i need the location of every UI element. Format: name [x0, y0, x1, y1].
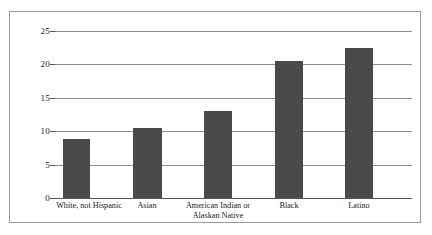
- y-tick-label-25: 25: [10, 27, 50, 36]
- x-axis-line: [55, 198, 412, 199]
- y-tick-label-5: 5: [10, 161, 50, 170]
- y-tick-label-20: 20: [10, 60, 50, 69]
- bar-chart-figure: 25 20 15 10 5 0 White, not Hispanic: [0, 0, 432, 235]
- bar-black: [275, 61, 303, 198]
- y-tick-label-15: 15: [10, 94, 50, 103]
- y-tick-label-10: 10: [10, 127, 50, 136]
- bar-white-not-hispanic: [63, 139, 90, 198]
- bar-asian: [133, 128, 162, 198]
- bar-latino: [345, 48, 373, 198]
- x-axis-labels: White, not Hispanic Asian American India…: [55, 201, 412, 225]
- y-axis-labels: 25 20 15 10 5 0: [5, 31, 50, 198]
- x-tick-label-latino: Latino: [315, 201, 403, 211]
- x-label-line-2: Alaskan Native: [168, 211, 268, 221]
- bar-american-indian-alaskan-native: [204, 111, 232, 198]
- x-label-line-1: Latino: [315, 201, 403, 211]
- plot-area: [55, 31, 412, 198]
- gridline-25: [55, 31, 412, 32]
